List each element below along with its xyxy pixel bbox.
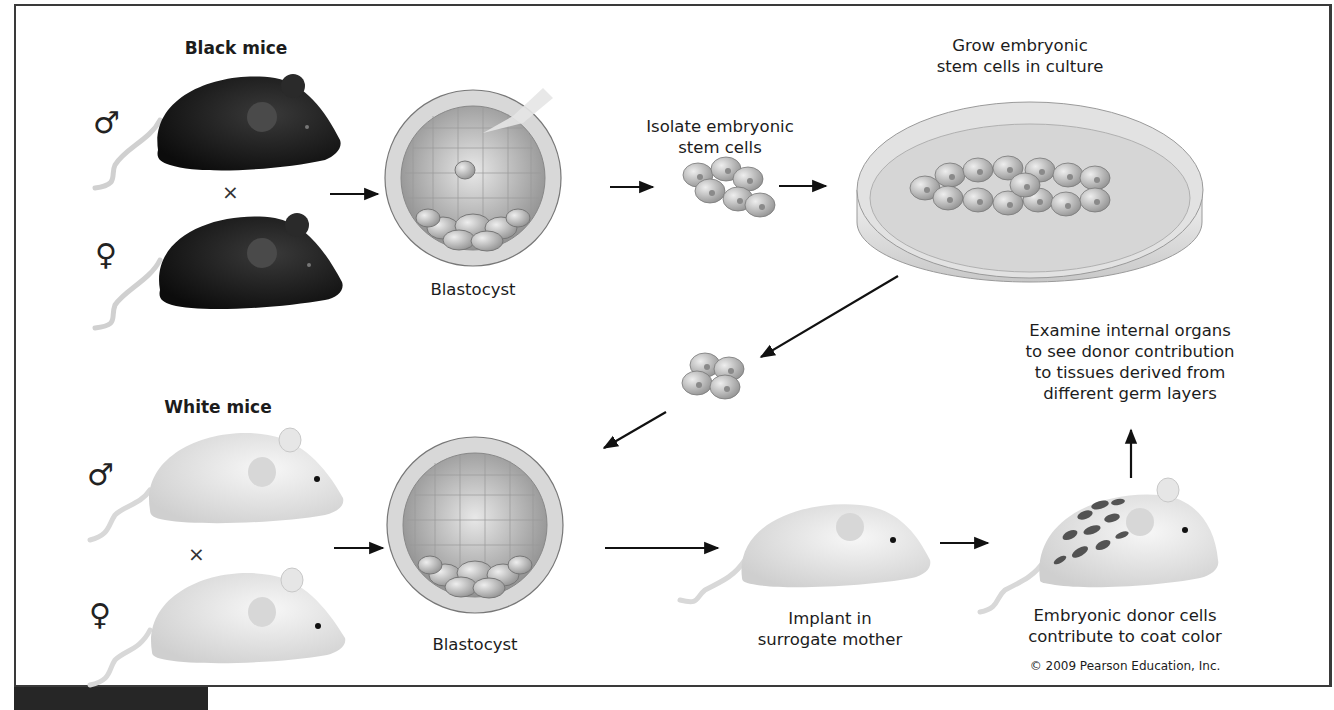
blastocyst-top-label: Blastocyst: [413, 279, 533, 300]
donor-label: Embryonic donor cells contribute to coat…: [1005, 605, 1245, 647]
black-mice-label: Black mice: [176, 38, 296, 59]
culture-dish: [857, 102, 1203, 282]
white-mice-label: White mice: [158, 397, 278, 418]
cross-symbol-icon: ×: [222, 180, 239, 204]
examine-label: Examine internal organs to see donor con…: [1005, 320, 1255, 404]
copyright-label: © 2009 Pearson Education, Inc.: [1005, 656, 1245, 677]
surrogate-mother-mouse: [680, 504, 930, 601]
black-mouse-male: [95, 74, 341, 188]
blastocyst-bottom: [387, 437, 563, 613]
female-symbol-icon: ♀: [95, 240, 117, 270]
chimeric-mouse: [980, 478, 1218, 612]
transfer-stem-cells: [682, 353, 744, 399]
blastocyst-top: [385, 88, 561, 266]
grow-label: Grow embryonic stem cells in culture: [920, 35, 1120, 77]
male-symbol-icon: ♂: [87, 460, 114, 490]
female-symbol-icon: ♀: [89, 600, 111, 630]
blastocyst-bottom-label: Blastocyst: [415, 634, 535, 655]
isolated-stem-cells: [683, 157, 775, 217]
isolate-label: Isolate embryonic stem cells: [630, 116, 810, 158]
black-mouse-female: [95, 213, 343, 328]
implant-label: Implant in surrogate mother: [745, 608, 915, 650]
white-mouse-male: [90, 428, 343, 540]
white-mouse-female: [90, 568, 345, 685]
cross-symbol-icon: ×: [188, 542, 205, 566]
male-symbol-icon: ♂: [93, 108, 120, 138]
